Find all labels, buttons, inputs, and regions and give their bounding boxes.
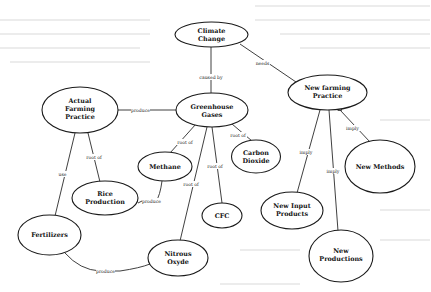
- node-nitrous-oxide: Nitrous Oxyde: [148, 240, 208, 276]
- svg-text:Greenhouse: Greenhouse: [191, 103, 234, 111]
- edge-actual-rice: root of: [85, 133, 103, 182]
- svg-text:Farming: Farming: [65, 105, 96, 113]
- node-new-productions: New Productions: [309, 230, 373, 282]
- node-fertilizers: Fertilizers: [18, 215, 81, 255]
- node-new-farming-practice: New farming Practice: [288, 75, 367, 110]
- svg-text:New Methods: New Methods: [356, 163, 405, 171]
- node-climate-change: Climate Change: [175, 22, 248, 47]
- edge-label: root of: [177, 140, 193, 145]
- svg-text:New: New: [333, 247, 349, 255]
- concept-map: caused by needs produce root of root of …: [0, 0, 431, 292]
- edge-newfarming-newmethods: imply: [338, 107, 370, 142]
- svg-text:Climate: Climate: [198, 27, 226, 35]
- edge-fertilizers-nitrous: produce: [65, 253, 150, 274]
- edge-label: root of: [230, 133, 246, 138]
- node-carbon-dioxide: Carbon Dioxide: [232, 140, 281, 173]
- svg-text:Practice: Practice: [65, 113, 95, 121]
- svg-text:Carbon: Carbon: [243, 149, 269, 157]
- node-greenhouse-gases: Greenhouse Gases: [176, 93, 248, 127]
- svg-text:Nitrous: Nitrous: [164, 250, 191, 258]
- svg-text:CFC: CFC: [215, 212, 230, 220]
- edge-greenhouse-co2: root of: [229, 124, 252, 141]
- svg-text:Oxyde: Oxyde: [167, 258, 189, 266]
- edge-climate-greenhouse: caused by: [199, 47, 223, 93]
- node-methane: Methane: [138, 152, 192, 181]
- edge-label: produce: [131, 108, 150, 113]
- edge-newfarming-newinput: imply: [297, 110, 320, 193]
- edge-greenhouse-methane: root of: [170, 124, 196, 153]
- edge-label: root of: [207, 164, 223, 169]
- edge-label: needs: [256, 61, 270, 66]
- node-rice-production: Rice Production: [72, 181, 138, 215]
- node-new-input-products: New Input Products: [261, 192, 323, 229]
- edge-label: root of: [183, 182, 199, 187]
- svg-text:Gases: Gases: [202, 111, 223, 119]
- svg-text:Methane: Methane: [149, 163, 181, 171]
- svg-text:Production: Production: [85, 198, 125, 206]
- svg-text:Fertilizers: Fertilizers: [31, 231, 68, 239]
- svg-text:New farming: New farming: [304, 84, 351, 92]
- edge-greenhouse-cfc: root of: [206, 127, 224, 203]
- svg-text:Rice: Rice: [97, 190, 113, 198]
- edge-newfarming-newproductions: imply: [326, 110, 340, 231]
- edge-actual-fertilizers: use: [55, 133, 75, 216]
- svg-text:Products: Products: [276, 210, 308, 218]
- node-new-methods: New Methods: [345, 140, 415, 193]
- edge-climate-newfarming: needs: [240, 44, 296, 82]
- edge-label: root of: [86, 155, 102, 160]
- svg-text:Productions: Productions: [319, 255, 363, 263]
- edge-rice-methane: produce: [138, 181, 162, 204]
- svg-text:Actual: Actual: [67, 97, 92, 105]
- edge-label: produce: [142, 199, 161, 204]
- node-actual-farming-practice: Actual Farming Practice: [42, 87, 118, 133]
- svg-text:Change: Change: [198, 35, 225, 43]
- node-cfc: CFC: [202, 203, 242, 228]
- edge-label: produce: [96, 269, 115, 274]
- svg-text:Dioxide: Dioxide: [242, 157, 269, 165]
- edge-label: use: [58, 172, 66, 177]
- svg-text:Practice: Practice: [313, 92, 343, 100]
- svg-text:New Input: New Input: [273, 202, 310, 210]
- edge-actual-greenhouse: produce: [118, 107, 176, 113]
